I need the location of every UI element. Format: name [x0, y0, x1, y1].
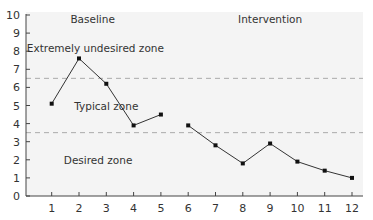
y-tick-label: 10	[6, 9, 20, 22]
x-tick-label: 4	[130, 202, 137, 215]
data-point-marker	[132, 123, 136, 127]
data-point-marker	[323, 169, 327, 173]
y-tick-label: 3	[13, 136, 20, 149]
data-point-marker	[268, 142, 272, 146]
data-point-marker	[104, 82, 108, 86]
annotation-label: Typical zone	[73, 100, 138, 112]
x-tick-label: 1	[48, 202, 55, 215]
y-tick-label: 0	[13, 190, 20, 203]
data-point-marker	[159, 113, 163, 117]
y-tick-label: 9	[13, 27, 20, 40]
x-tick-label: 2	[76, 202, 83, 215]
annotation-label: Desired zone	[64, 154, 133, 166]
x-tick-label: 10	[290, 202, 304, 215]
single-case-line-chart: 012345678910123456789101112 BaselineInte…	[0, 0, 373, 220]
data-point-marker	[350, 176, 354, 180]
x-tick-label: 7	[212, 202, 219, 215]
data-point-marker	[214, 143, 218, 147]
x-tick-label: 8	[239, 202, 246, 215]
data-point-marker	[186, 123, 190, 127]
data-point-marker	[50, 102, 54, 106]
y-tick-label: 1	[13, 172, 20, 185]
annotation-label: Extremely undesired zone	[27, 42, 164, 54]
annotation-label: Baseline	[70, 13, 115, 25]
y-tick-label: 6	[13, 81, 20, 94]
annotation-label: Intervention	[238, 13, 302, 25]
data-point-marker	[77, 56, 81, 60]
data-point-marker	[241, 161, 245, 165]
y-tick-label: 5	[13, 100, 20, 113]
x-tick-label: 12	[345, 202, 359, 215]
x-tick-label: 5	[157, 202, 164, 215]
y-tick-label: 7	[13, 63, 20, 76]
x-tick-label: 6	[185, 202, 192, 215]
y-tick-label: 8	[13, 45, 20, 58]
y-tick-label: 2	[13, 154, 20, 167]
data-point-marker	[295, 160, 299, 164]
x-tick-label: 9	[267, 202, 274, 215]
y-tick-label: 4	[13, 118, 20, 131]
x-tick-label: 3	[103, 202, 110, 215]
x-tick-label: 11	[318, 202, 332, 215]
